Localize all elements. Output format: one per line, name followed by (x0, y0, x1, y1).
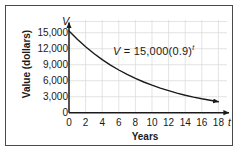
xtick-label-14: 14 (176, 118, 194, 128)
xtick-label-8: 8 (126, 118, 144, 128)
figure-root: 15,000 12,000 9,000 6,000 3,000 0 0 2 4 … (0, 0, 239, 152)
xtick-label-4: 4 (93, 118, 111, 128)
xtick-label-16: 16 (193, 118, 211, 128)
x-axis-variable-symbol: t (228, 118, 231, 128)
equation-coefficient: 15,000 (134, 45, 169, 57)
equation-annotation: V = 15,000(0.9)t (113, 44, 194, 57)
xtick-label-12: 12 (160, 118, 178, 128)
equation-base: (0.9) (169, 45, 193, 57)
xtick-label-18: 18 (209, 118, 227, 128)
x-axis-title: Years (85, 132, 205, 142)
equation-exponent: t (192, 44, 194, 51)
xtick-label-10: 10 (143, 118, 161, 128)
xtick-label-2: 2 (77, 118, 95, 128)
xtick-label-6: 6 (110, 118, 128, 128)
equation-lhs: V (113, 45, 121, 57)
xtick-label-0: 0 (60, 118, 78, 128)
y-axis-title: Value (dollars) (22, 16, 32, 112)
y-axis-variable-symbol: V (62, 16, 69, 27)
